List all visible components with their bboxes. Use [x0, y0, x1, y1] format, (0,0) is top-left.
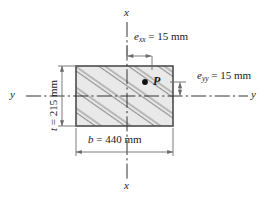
- e-yy-equals: =: [211, 69, 217, 81]
- e-xx-unit: mm: [171, 30, 188, 42]
- thickness-equals: =: [47, 119, 59, 125]
- thickness-label: t = 215 mm: [48, 80, 59, 131]
- e-yy-label: eyy = 15 mm: [197, 70, 251, 82]
- cross-section-figure: x x y y exx = 15 mm eyy = 15 mm b = 440 …: [0, 0, 275, 197]
- e-yy-value: 15: [220, 69, 231, 81]
- width-unit: mm: [124, 133, 141, 145]
- load-point-label: P: [153, 75, 160, 87]
- thickness-unit: mm: [47, 80, 59, 97]
- x-axis-label-bottom: x: [124, 180, 129, 191]
- width-equals: =: [96, 133, 102, 145]
- e-yy-unit: mm: [234, 69, 251, 81]
- e-yy-subscript: yy: [202, 74, 209, 83]
- thickness-symbol: t: [47, 128, 59, 131]
- width-value: 440: [105, 133, 122, 145]
- e-xx-label: exx = 15 mm: [134, 31, 188, 43]
- e-xx-equals: =: [148, 30, 154, 42]
- y-axis-label-right: y: [251, 89, 256, 100]
- load-point-marker: [142, 79, 148, 85]
- width-label: b = 440 mm: [88, 134, 142, 145]
- thickness-value: 215: [47, 100, 59, 117]
- y-axis-label-left: y: [10, 89, 15, 100]
- e-xx-subscript: xx: [139, 35, 146, 44]
- width-symbol: b: [88, 133, 94, 145]
- x-axis-label-top: x: [124, 7, 129, 18]
- e-xx-value: 15: [157, 30, 168, 42]
